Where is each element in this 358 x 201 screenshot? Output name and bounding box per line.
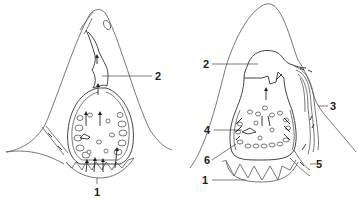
left-label-2: 2 bbox=[155, 70, 161, 82]
right-label-1: 1 bbox=[202, 174, 208, 186]
right-inner-body bbox=[242, 128, 256, 134]
left-label-1: 1 bbox=[94, 186, 100, 198]
left-side-vessel bbox=[42, 126, 68, 155]
right-side-arrows bbox=[236, 118, 290, 140]
right-basal-zigzag bbox=[228, 160, 296, 180]
right-label-3: 3 bbox=[330, 100, 336, 112]
right-label-6: 6 bbox=[204, 154, 210, 166]
right-label-4: 4 bbox=[204, 124, 211, 136]
diagram-canvas: 1 2 1 2 3 4 5 6 bbox=[0, 0, 358, 201]
right-cells bbox=[236, 106, 291, 148]
left-inner-body bbox=[80, 134, 90, 139]
right-label-5: 5 bbox=[316, 158, 322, 170]
left-apex-cell bbox=[102, 19, 112, 31]
left-outer-outline bbox=[6, 10, 172, 153]
right-structure bbox=[190, 4, 356, 182]
left-structure bbox=[6, 10, 172, 185]
right-label-2: 2 bbox=[203, 58, 209, 70]
left-cells bbox=[74, 113, 127, 159]
right-vessel-bundle bbox=[294, 66, 319, 154]
